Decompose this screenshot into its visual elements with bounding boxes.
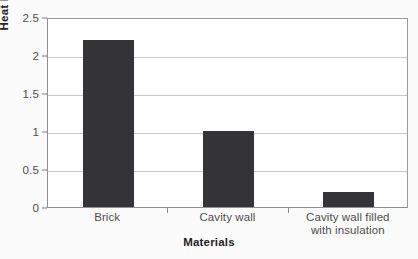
x-axis-category-label: Brick xyxy=(47,211,167,224)
y-axis-tick-label: 0 xyxy=(32,202,39,214)
x-axis-category-label-line: Cavity wall filled xyxy=(288,211,408,224)
y-axis-tick-label: 1.5 xyxy=(22,88,39,100)
plot-area xyxy=(47,18,408,208)
y-axis-tick-label: 1 xyxy=(32,126,39,138)
bar xyxy=(83,40,134,207)
x-axis-title: Materials xyxy=(0,236,418,248)
y-axis: 00.511.522.5 xyxy=(0,0,47,259)
bar xyxy=(323,192,374,207)
x-axis-category-label: Cavity wall xyxy=(167,211,287,224)
y-axis-tick-label: 2 xyxy=(32,50,39,62)
y-axis-tick-label: 2.5 xyxy=(22,12,39,24)
x-axis-category-label-line: Cavity wall xyxy=(167,211,287,224)
bar-chart: Heat loss 00.511.522.5 BrickCavity wallC… xyxy=(0,0,418,259)
x-axis-category-label: Cavity wall filledwith insulation xyxy=(288,211,408,237)
bar xyxy=(203,131,254,207)
y-axis-tick-label: 0.5 xyxy=(22,164,39,176)
x-axis-category-label-line: Brick xyxy=(47,211,167,224)
